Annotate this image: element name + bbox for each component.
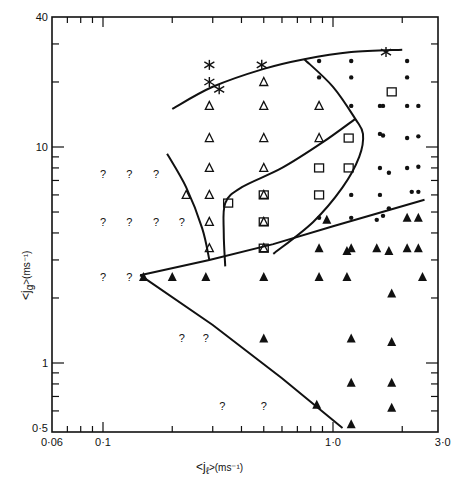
open-square-marker (315, 164, 324, 172)
data-markers: ????????????? (100, 47, 427, 428)
open-triangle-marker (205, 101, 213, 109)
open-triangle-marker (205, 217, 213, 225)
filled-dot-marker (405, 104, 409, 108)
filled-dot-marker (405, 75, 409, 79)
filled-dot-marker (349, 193, 353, 197)
filled-dot-marker (349, 75, 353, 79)
filled-dot-marker (375, 218, 379, 222)
filled-dot-marker (381, 104, 385, 108)
svg-text:?: ? (126, 271, 132, 283)
filled-triangle-marker (414, 213, 423, 222)
uncertain-marker: ? (203, 332, 209, 344)
filled-triangle-marker (315, 272, 324, 281)
uncertain-marker: ? (261, 400, 267, 412)
uncertain-marker: ? (100, 216, 106, 228)
svg-text:?: ? (203, 332, 209, 344)
x-tick-label: 1·0 (325, 436, 341, 448)
x-tick-label: 0·1 (95, 436, 111, 448)
uncertain-marker: ? (126, 168, 132, 180)
svg-text:?: ? (153, 216, 159, 228)
svg-text:?: ? (100, 216, 106, 228)
filled-dot-marker (405, 59, 409, 63)
filled-triangle-marker (259, 333, 268, 342)
filled-dot-marker (317, 59, 321, 63)
filled-dot-marker (317, 216, 321, 220)
filled-dot-marker (349, 59, 353, 63)
svg-text:?: ? (126, 216, 132, 228)
axis-ticks (52, 17, 438, 432)
filled-triangle-marker (315, 243, 324, 252)
inner-curve-line (223, 119, 355, 267)
open-triangle-marker (260, 163, 268, 171)
wedge-lower-line (140, 275, 342, 428)
open-square-marker (344, 134, 353, 142)
wedge-upper-line (140, 200, 424, 275)
filled-dot-marker (349, 216, 353, 220)
filled-dot-marker (378, 166, 382, 170)
filled-dot-marker (416, 165, 420, 169)
filled-triangle-marker (387, 288, 396, 297)
filled-triangle-marker (418, 272, 427, 281)
filled-dot-marker (410, 190, 414, 194)
filled-dot-marker (405, 166, 409, 170)
filled-triangle-marker (168, 272, 177, 281)
uncertain-marker: ? (153, 216, 159, 228)
uncertain-marker: ? (126, 216, 132, 228)
filled-dot-marker (416, 134, 420, 138)
open-triangle-marker (260, 77, 268, 85)
svg-text:?: ? (100, 168, 106, 180)
asterisk-marker (204, 77, 214, 87)
open-triangle-marker (315, 101, 323, 109)
y-axis-title: <jg>(ms⁻¹) (19, 251, 35, 300)
filled-triangle-marker (372, 243, 381, 252)
svg-text:?: ? (100, 271, 106, 283)
open-triangle-marker (315, 134, 323, 142)
filled-dot-marker (378, 193, 382, 197)
flow-regime-chart: 0·060·11·03·00·511040 ????????????? <jℓ>… (0, 0, 458, 485)
y-tick-label: 40 (36, 11, 48, 23)
y-tick-label: 0·5 (32, 422, 48, 434)
uncertain-marker: ? (100, 168, 106, 180)
filled-dot-marker (381, 214, 385, 218)
filled-triangle-marker (403, 243, 412, 252)
uncertain-marker: ? (153, 168, 159, 180)
filled-dot-marker (317, 75, 321, 79)
open-triangle-marker (205, 134, 213, 142)
open-triangle-marker (260, 101, 268, 109)
filled-dot-marker (416, 190, 420, 194)
filled-triangle-marker (387, 337, 396, 346)
filled-dot-marker (405, 136, 409, 140)
svg-text:?: ? (179, 332, 185, 344)
filled-triangle-marker (347, 333, 356, 342)
filled-dot-marker (381, 133, 385, 137)
diagonal-right-line (273, 59, 363, 254)
filled-triangle-marker (347, 419, 356, 428)
open-triangle-marker (205, 163, 213, 171)
filled-triangle-marker (347, 378, 356, 387)
open-triangle-marker (260, 190, 268, 198)
upper-boundary-line (172, 50, 402, 109)
y-tick-label: 1 (42, 357, 48, 369)
uncertain-marker: ? (179, 216, 185, 228)
filled-triangle-marker (201, 272, 210, 281)
x-axis-title: <jℓ>(ms⁻¹) (196, 460, 243, 476)
filled-triangle-marker (387, 378, 396, 387)
filled-triangle-marker (342, 272, 351, 281)
open-square-marker (315, 191, 324, 199)
left-curve-line (167, 154, 209, 260)
filled-triangle-marker (384, 246, 393, 255)
svg-text:?: ? (126, 168, 132, 180)
filled-triangle-marker (387, 403, 396, 412)
svg-text:?: ? (219, 400, 225, 412)
svg-text:?: ? (179, 216, 185, 228)
uncertain-marker: ? (100, 271, 106, 283)
plot-border (52, 17, 438, 432)
filled-dot-marker (349, 104, 353, 108)
uncertain-marker: ? (219, 400, 225, 412)
filled-triangle-marker (322, 215, 331, 224)
y-tick-label: 10 (36, 141, 48, 153)
open-square-marker (387, 88, 396, 96)
open-triangle-marker (260, 217, 268, 225)
filled-triangle-marker (347, 243, 356, 252)
open-triangle-marker (260, 134, 268, 142)
